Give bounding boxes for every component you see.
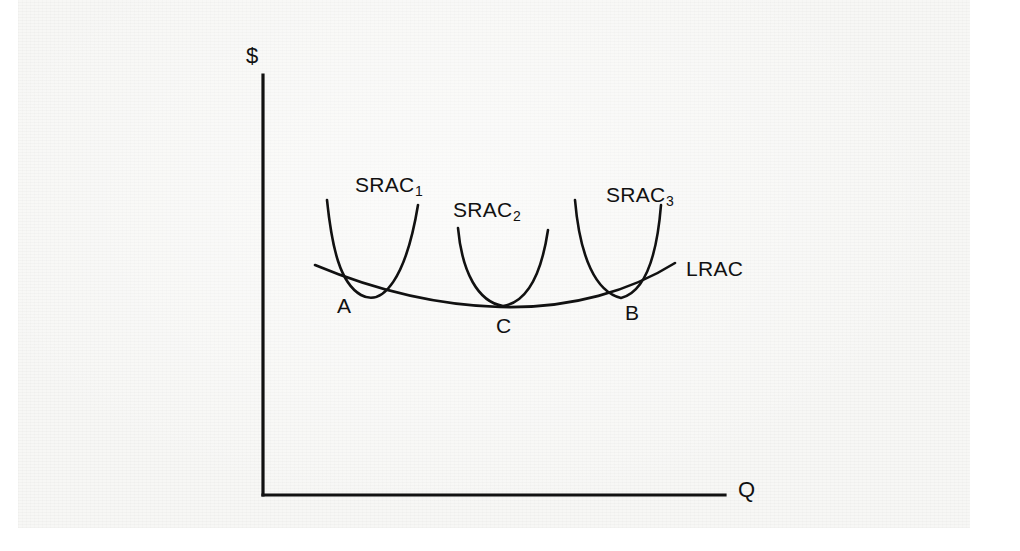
point-label-c: C <box>496 315 511 336</box>
y-axis-label: $ <box>246 45 258 67</box>
srac1-curve <box>327 200 418 298</box>
point-label-a: A <box>337 295 351 316</box>
figure-page: $ Q SRAC1 SRAC2 SRAC3 LRAC A C B <box>0 0 1020 551</box>
srac2-curve <box>458 228 548 306</box>
srac1-label: SRAC1 <box>355 174 423 198</box>
srac1-label-text: SRAC <box>355 173 415 196</box>
lrac-label: LRAC <box>686 258 743 279</box>
srac1-label-subscript: 1 <box>415 183 424 199</box>
srac3-label-subscript: 3 <box>666 193 675 209</box>
x-axis-label: Q <box>738 479 755 501</box>
srac3-label: SRAC3 <box>606 184 674 208</box>
cost-curve-diagram <box>0 0 1020 551</box>
srac2-label-subscript: 2 <box>513 208 522 224</box>
srac3-curve <box>575 200 661 298</box>
point-label-b: B <box>625 302 639 323</box>
srac3-label-text: SRAC <box>606 183 666 206</box>
lrac-curve <box>315 263 675 307</box>
srac2-label: SRAC2 <box>453 199 521 223</box>
srac2-label-text: SRAC <box>453 198 513 221</box>
